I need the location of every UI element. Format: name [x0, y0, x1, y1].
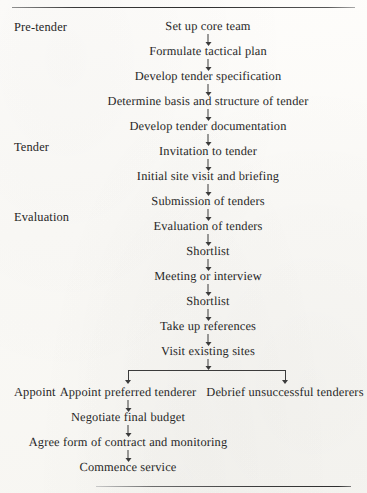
- bottom-horizontal-rule: [96, 486, 351, 487]
- flow-node-shortlist-2: Shortlist: [186, 295, 229, 307]
- branch-horizontal-bar: [128, 370, 286, 371]
- flow-node-submission-of-tenders: Submission of tenders: [151, 195, 264, 207]
- flow-node-shortlist-1: Shortlist: [186, 245, 229, 257]
- top-horizontal-rule: [12, 7, 355, 8]
- flow-node-formulate-tactical-plan: Formulate tactical plan: [149, 45, 267, 57]
- branch-left-leg: [128, 370, 129, 380]
- branch-right-arrowhead: [282, 380, 288, 384]
- branch-right-leg: [285, 370, 286, 380]
- flow-node-negotiate-final-budget: Negotiate final budget: [71, 411, 185, 423]
- flow-node-develop-tender-documentation: Develop tender documentation: [130, 120, 287, 132]
- flow-node-initial-site-visit-and-briefing: Initial site visit and briefing: [137, 170, 279, 182]
- flow-node-take-up-references: Take up references: [160, 320, 256, 332]
- stage-label-evaluation: Evaluation: [14, 211, 69, 223]
- flow-node-agree-form-of-contract-and-monitoring: Agree form of contract and monitoring: [29, 436, 228, 448]
- flow-node-appoint-preferred-tenderer: Appoint preferred tenderer: [60, 386, 197, 398]
- flow-node-develop-tender-specification: Develop tender specification: [135, 70, 282, 82]
- document-page: Pre-tender Tender Evaluation Appoint Set…: [0, 0, 367, 493]
- flow-node-set-up-core-team: Set up core team: [165, 20, 250, 32]
- stage-label-appoint: Appoint: [14, 386, 56, 398]
- flow-node-debrief-unsuccessful-tenderers: Debrief unsuccessful tenderers: [206, 386, 363, 398]
- branch-left-arrowhead: [125, 380, 131, 384]
- flow-node-evaluation-of-tenders: Evaluation of tenders: [153, 220, 262, 232]
- flow-node-meeting-or-interview: Meeting or interview: [154, 270, 262, 282]
- flow-node-determine-basis-and-structure-of-tender: Determine basis and structure of tender: [108, 95, 309, 107]
- flow-node-visit-existing-sites: Visit existing sites: [161, 345, 255, 357]
- flow-arrow-14: [204, 359, 213, 370]
- flow-node-invitation-to-tender: Invitation to tender: [159, 145, 257, 157]
- stage-label-tender: Tender: [14, 141, 49, 153]
- flow-node-commence-service: Commence service: [79, 461, 176, 473]
- stage-label-pre-tender: Pre-tender: [14, 21, 67, 33]
